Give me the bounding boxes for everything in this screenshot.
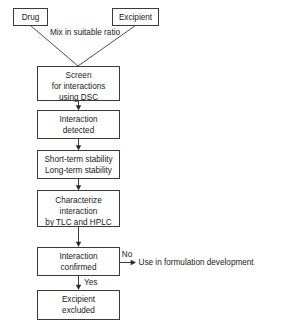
screen-line-3: using DSC	[59, 93, 98, 102]
stability-line-1: Short-term stability	[44, 155, 113, 164]
screen-line-1: Screen	[66, 71, 92, 80]
characterize-line-3: by TLC and HPLC	[45, 218, 111, 227]
characterize-line-1: Characterize	[55, 196, 102, 205]
flowchart-diagram: Drug Excipient Mix in suitable ratio Scr…	[0, 0, 281, 331]
no-branch-label: No	[122, 250, 133, 259]
branch-yes: Yes	[76, 276, 98, 291]
process-node-interaction-detected: Interaction detected	[38, 111, 120, 139]
connector-detected-to-stability	[76, 139, 81, 151]
interaction-detected-line-2: detected	[63, 126, 95, 135]
connector-characterize-to-confirmed	[76, 227, 81, 248]
excipient-excluded-line-1: Excipient	[62, 295, 96, 304]
arrow-head-icon	[76, 185, 81, 190]
decision-node-interaction-confirmed: Interaction confirmed	[38, 248, 120, 276]
connector-screen-to-detected	[76, 101, 81, 111]
process-node-characterize: Characterize interaction by TLC and HPLC	[38, 191, 120, 227]
stability-line-2: Long-term stability	[45, 166, 113, 175]
interaction-confirmed-line-2: confirmed	[61, 263, 97, 272]
excipient-excluded-line-2: excluded	[62, 306, 95, 315]
figure-caption-strip	[0, 322, 281, 331]
arrow-head-icon	[76, 145, 81, 150]
flowchart-canvas: Drug Excipient Mix in suitable ratio Scr…	[0, 0, 281, 331]
interaction-detected-line-1: Interaction	[59, 115, 98, 124]
process-node-screen: Screen for interactions using DSC	[38, 67, 120, 102]
characterize-line-2: interaction	[60, 207, 98, 216]
connector-stability-to-characterize	[76, 179, 81, 191]
excipient-label: Excipient	[119, 13, 153, 22]
branch-no: No Use in formulation development	[120, 250, 255, 267]
arrow-head-icon	[76, 242, 81, 247]
interaction-confirmed-line-1: Interaction	[59, 252, 98, 261]
process-node-excipient-excluded: Excipient excluded	[38, 291, 120, 320]
arrow-head-icon	[131, 260, 136, 265]
arrow-head-icon	[76, 285, 81, 290]
input-node-excipient: Excipient	[113, 9, 159, 26]
merge-label: Mix in suitable ratio	[50, 28, 121, 37]
no-branch-outcome: Use in formulation development	[139, 258, 255, 267]
process-node-stability: Short-term stability Long-term stability	[38, 151, 120, 179]
screen-line-2: for interactions	[52, 82, 106, 91]
input-node-drug: Drug	[14, 9, 48, 26]
arrow-head-icon	[76, 105, 81, 110]
drug-label: Drug	[22, 13, 40, 22]
yes-branch-label: Yes	[84, 278, 97, 287]
